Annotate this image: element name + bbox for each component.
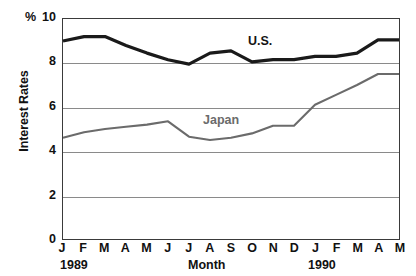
x-tick-label-9: O bbox=[247, 241, 257, 255]
x-axis-title: Month bbox=[188, 258, 225, 272]
x-tick-label-14: M bbox=[353, 241, 363, 255]
x-tick-label-2: M bbox=[99, 241, 109, 255]
x-tick-label-6: J bbox=[185, 241, 192, 255]
plot-area: U.S. Japan bbox=[62, 18, 400, 240]
y-tick-label-4: 4 bbox=[6, 143, 56, 157]
x-axis-tick-labels: JFMAMJJASONDJFMAM bbox=[62, 241, 400, 259]
y-tick-label-6: 6 bbox=[6, 99, 56, 113]
x-tick-label-5: J bbox=[164, 241, 171, 255]
y-tick-label-10: 10 bbox=[6, 10, 56, 24]
y-tick-label-8: 8 bbox=[6, 54, 56, 68]
x-tick-label-10: N bbox=[269, 241, 278, 255]
year-label-end: 1990 bbox=[308, 258, 336, 272]
x-tick-label-15: A bbox=[374, 241, 383, 255]
x-tick-label-4: M bbox=[141, 241, 151, 255]
series-line-us bbox=[63, 37, 399, 65]
series-lines bbox=[63, 19, 399, 239]
x-tick-label-13: F bbox=[333, 241, 341, 255]
interest-rates-line-chart: Interest Rates % 0246810 U.S. Japan JFMA… bbox=[0, 0, 416, 276]
y-tick-label-2: 2 bbox=[6, 188, 56, 202]
y-axis-tick-labels: 0246810 bbox=[6, 0, 56, 276]
x-tick-label-12: J bbox=[312, 241, 319, 255]
series-label-us: U.S. bbox=[248, 34, 272, 48]
y-tick-label-0: 0 bbox=[6, 232, 56, 246]
year-label-start: 1989 bbox=[60, 258, 88, 272]
x-tick-label-3: A bbox=[121, 241, 130, 255]
x-tick-label-0: J bbox=[59, 241, 66, 255]
x-tick-label-1: F bbox=[79, 241, 87, 255]
x-tick-label-16: M bbox=[395, 241, 405, 255]
x-tick-label-11: D bbox=[290, 241, 299, 255]
series-label-japan: Japan bbox=[203, 113, 239, 127]
x-tick-label-8: S bbox=[227, 241, 235, 255]
x-tick-label-7: A bbox=[205, 241, 214, 255]
series-line-japan bbox=[63, 74, 399, 140]
